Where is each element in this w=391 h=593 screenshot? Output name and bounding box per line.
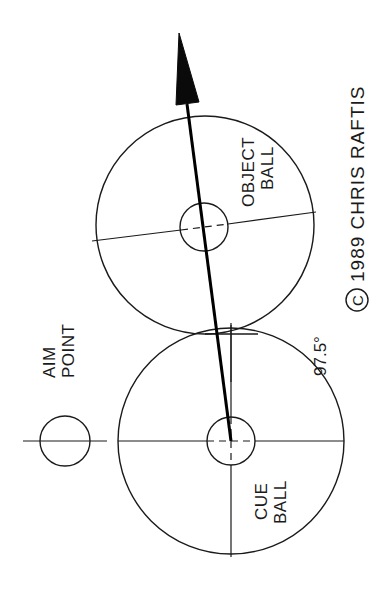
aim-point-label-line1: AIM <box>40 346 59 378</box>
object-ball-circle <box>96 116 314 334</box>
object-ball-label-line1: OBJECT <box>239 137 258 207</box>
arrowhead-icon <box>176 33 199 105</box>
angle-label: 97.5° <box>311 336 330 376</box>
copyright-text: 1989 CHRIS RAFTIS <box>347 86 368 283</box>
copyright: C 1989 CHRIS RAFTIS <box>346 86 368 312</box>
billiards-diagram: AIM POINT CUE BALL OBJECT BALL 97.5° <box>0 0 391 593</box>
cue-ball-label-line2: BALL <box>271 480 290 524</box>
object-ball-label-line2: BALL <box>258 146 277 190</box>
shot-line <box>187 104 231 441</box>
object-ball-centerline-right <box>228 212 316 224</box>
copyright-symbol: C <box>349 294 366 306</box>
aim-point: AIM POINT <box>23 324 107 466</box>
object-ball-centerline-left <box>92 230 181 241</box>
cue-ball-label-line1: CUE <box>252 483 271 520</box>
aim-point-label-line2: POINT <box>59 324 78 378</box>
